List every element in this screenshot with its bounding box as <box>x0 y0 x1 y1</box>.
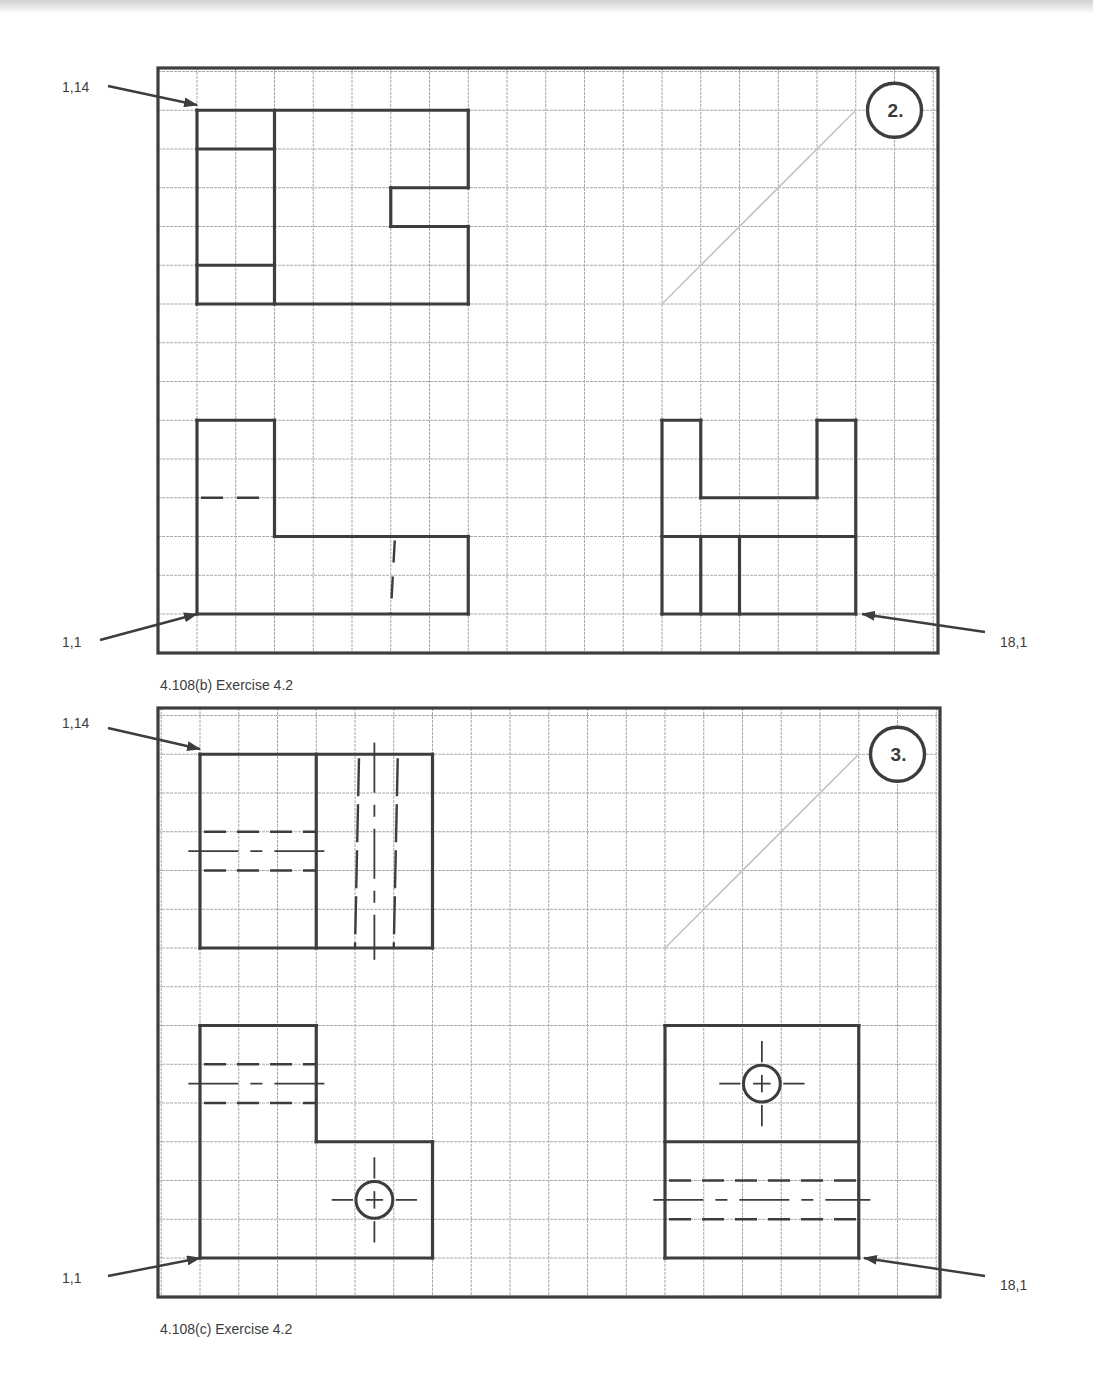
miter-line <box>662 110 856 304</box>
exercise-number: 2. <box>888 100 904 121</box>
figure-4-108b: 2. 1,14 1,1 18,1 4.108(b) Exercise 4.2 <box>62 68 1027 693</box>
exercise-sheet: 2. 1,14 1,1 18,1 4.108(b) Exercise 4.2 3… <box>0 0 1093 1382</box>
label-1-14: 1,14 <box>62 715 89 731</box>
label-1-14: 1,14 <box>62 79 89 95</box>
arrow-icon <box>108 1258 200 1276</box>
arrow-icon <box>108 728 200 749</box>
coordinate-labels: 1,14 1,1 18,1 <box>62 79 1027 650</box>
figure-caption: 4.108(b) Exercise 4.2 <box>160 677 293 693</box>
hole-icon <box>332 1157 417 1242</box>
hole-icon <box>719 1041 804 1126</box>
coordinate-labels: 1,14 1,1 18,1 <box>62 715 1027 1293</box>
orthographic-views <box>197 110 856 614</box>
miter-line <box>665 754 859 948</box>
arrow-icon <box>864 1258 985 1276</box>
label-1-1: 1,1 <box>62 634 82 650</box>
label-18-1: 18,1 <box>1000 1277 1027 1293</box>
figure-caption: 4.108(c) Exercise 4.2 <box>160 1321 292 1337</box>
exercise-number-badge: 3. <box>871 727 925 781</box>
exercise-number: 3. <box>891 744 907 765</box>
label-1-1: 1,1 <box>62 1270 82 1286</box>
figure-4-108c: 3. 1,14 1,1 18,1 4.108(c) Exercise 4.2 <box>62 708 1027 1337</box>
arrow-icon <box>862 614 985 632</box>
label-18-1: 18,1 <box>1000 634 1027 650</box>
arrow-icon <box>108 86 197 105</box>
exercise-number-badge: 2. <box>868 83 922 137</box>
arrow-icon <box>100 614 197 640</box>
grid <box>158 708 940 1297</box>
